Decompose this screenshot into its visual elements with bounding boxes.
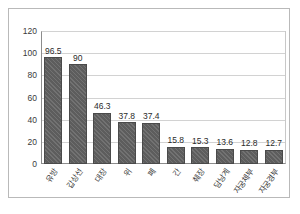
x-axis-tick: 담낭계 xyxy=(213,166,238,206)
y-axis-tick-label: 40 xyxy=(11,115,37,124)
x-axis-tick: 대장 xyxy=(90,166,115,206)
gridline xyxy=(42,75,285,76)
x-axis-tick: 췌장 xyxy=(188,166,213,206)
x-axis-tick-label: 유방 xyxy=(45,168,60,184)
x-axis-tick: 갑상선 xyxy=(66,166,91,206)
y-axis-tick-label: 0 xyxy=(11,160,37,169)
y-axis-tick-label: 100 xyxy=(11,49,37,58)
x-axis-tick-label: 담낭계 xyxy=(213,168,232,190)
plot-area xyxy=(41,31,286,164)
x-axis-tick-label: 췌장 xyxy=(192,168,207,184)
gridline xyxy=(42,120,285,121)
x-axis-tick: 위 xyxy=(115,166,140,206)
x-axis-tick-label: 폐 xyxy=(147,168,158,178)
x-axis-tick-label: 위 xyxy=(123,168,134,178)
x-axis-tick-label: 간 xyxy=(172,168,183,178)
x-axis-tick: 간 xyxy=(164,166,189,206)
x-axis-tick: 폐 xyxy=(139,166,164,206)
x-axis-tick-label: 대장 xyxy=(94,168,109,184)
gridline xyxy=(42,53,285,54)
x-axis-tick-label: 자궁체부 xyxy=(233,168,256,196)
gridline xyxy=(42,98,285,99)
x-axis-tick: 자궁체부 xyxy=(237,166,262,206)
y-axis-tick-label: 80 xyxy=(11,71,37,80)
x-axis-tick: 유방 xyxy=(41,166,66,206)
gridline xyxy=(42,31,285,32)
x-axis: 유방갑상선대장위폐간췌장담낭계자궁체부자궁경부 xyxy=(41,166,286,206)
chart-frame: 020406080100120 96.59046.337.837.415.815… xyxy=(8,8,290,198)
y-axis: 020406080100120 xyxy=(9,31,37,164)
y-axis-tick-label: 120 xyxy=(11,27,37,36)
x-axis-tick-label: 갑상선 xyxy=(66,168,85,190)
y-axis-tick-label: 20 xyxy=(11,138,37,147)
x-axis-tick-label: 자궁경부 xyxy=(258,168,281,196)
y-axis-tick-label: 60 xyxy=(11,93,37,102)
chart-screenshot: 020406080100120 96.59046.337.837.415.815… xyxy=(0,0,300,214)
gridline xyxy=(42,142,285,143)
x-axis-tick: 자궁경부 xyxy=(262,166,287,206)
